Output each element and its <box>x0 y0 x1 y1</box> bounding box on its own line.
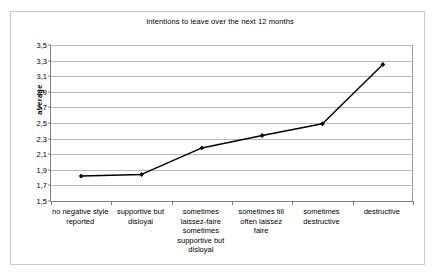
x-category-label: sometimesdestructive <box>291 207 351 226</box>
x-category-label-line: supportive but <box>171 236 231 246</box>
y-tick-label: 2,5 <box>37 119 47 128</box>
y-tick-label: 3,1 <box>37 72 47 81</box>
x-category-label-line: laissez-faire <box>171 217 231 227</box>
x-category-label-line: disloyal <box>110 217 170 227</box>
x-category-label-line: sometimes <box>291 207 351 217</box>
x-tick-mark <box>232 201 233 205</box>
chart-title: Intentions to leave over the next 12 mon… <box>60 17 380 26</box>
x-category-label: supportive butdisloyal <box>110 207 170 226</box>
y-tick-label: 2,9 <box>37 87 47 96</box>
x-category-label-line: no negative style <box>50 207 110 217</box>
x-category-label: sometimeslaissez-fairesometimessupportiv… <box>171 207 231 255</box>
x-tick-mark <box>51 201 52 205</box>
data-point-marker <box>79 174 84 179</box>
y-tick-label: 3,5 <box>37 41 47 50</box>
y-tick-label: 2,3 <box>37 134 47 143</box>
data-point-marker <box>199 146 204 151</box>
data-point-marker <box>260 133 265 138</box>
x-tick-mark <box>413 201 414 205</box>
series-line-average <box>51 45 413 201</box>
x-category-label-line: sometimes till <box>231 207 291 217</box>
x-category-label: destructive <box>352 207 412 217</box>
data-point-marker <box>139 172 144 177</box>
x-category-label-line: destructive <box>352 207 412 217</box>
x-tick-mark <box>111 201 112 205</box>
x-category-label-line: destructive <box>291 217 351 227</box>
y-tick-label: 2,7 <box>37 103 47 112</box>
x-tick-mark <box>292 201 293 205</box>
x-category-label-line: supportive but <box>110 207 170 217</box>
x-category-label-line: disloyal <box>171 245 231 255</box>
x-tick-mark <box>353 201 354 205</box>
x-tick-mark <box>172 201 173 205</box>
x-category-label-line: faire <box>231 226 291 236</box>
x-category-label-line: sometimes <box>171 207 231 217</box>
x-category-label: sometimes tilloften laissezfaire <box>231 207 291 236</box>
y-tick-label: 1,9 <box>37 165 47 174</box>
chart-figure: Intentions to leave over the next 12 mon… <box>0 0 437 279</box>
x-category-label-line: often laissez <box>231 217 291 227</box>
x-category-label: no negative stylereported <box>50 207 110 226</box>
y-tick-label: 1,7 <box>37 181 47 190</box>
y-tick-label: 3,3 <box>37 56 47 65</box>
x-category-label-line: sometimes <box>171 226 231 236</box>
plot-area: 3,53,33,12,92,72,52,32,11,91,71,5 <box>50 45 413 202</box>
y-tick-label: 1,5 <box>37 197 47 206</box>
x-category-label-line: reported <box>50 217 110 227</box>
y-tick-label: 2,1 <box>37 150 47 159</box>
